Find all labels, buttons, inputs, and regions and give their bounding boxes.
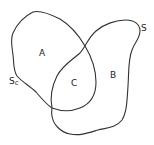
boundary-sc-curve [11,11,96,110]
region-c-label: C [71,78,77,88]
boundary-s-label: S [141,23,147,33]
set-diagram: A B C S Sc [0,0,154,145]
diagram-svg: A B C S Sc [0,0,154,145]
boundary-sc-label: Sc [9,76,19,87]
region-b-label: B [110,70,116,80]
region-a-label: A [39,48,46,58]
